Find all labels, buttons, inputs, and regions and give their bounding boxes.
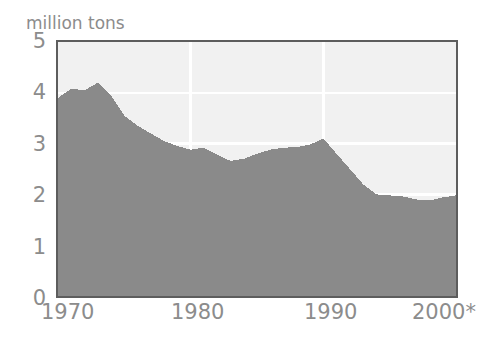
x-axis-tick-1980: 1980	[171, 302, 224, 323]
plot-area	[56, 40, 458, 298]
y-axis-tick-1: 1	[0, 237, 46, 258]
x-axis-tick-1990: 1990	[304, 302, 357, 323]
area-chart-figure: Northwest Atlantic million tons 5 4 3 2 …	[0, 0, 498, 340]
y-axis-tick-4: 4	[0, 82, 46, 103]
x-axis-tick-1970: 1970	[41, 302, 94, 323]
y-axis-tick-0: 0	[0, 288, 46, 309]
area-series-path	[58, 83, 456, 296]
chart-title: Northwest Atlantic	[0, 0, 498, 5]
y-axis-tick-3: 3	[0, 134, 46, 155]
y-axis-tick-5: 5	[0, 31, 46, 52]
y-axis-tick-2: 2	[0, 185, 46, 206]
x-axis-tick-2000: 2000*	[412, 302, 476, 323]
area-series-plot	[58, 42, 456, 296]
